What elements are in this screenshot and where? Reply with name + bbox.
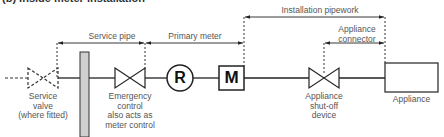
label-installation-pipework: Installation pipework (275, 6, 365, 16)
wall (80, 52, 89, 137)
appliance-box (385, 63, 438, 92)
label-primary-meter: Primary meter (165, 32, 225, 42)
label-service-valve: Service valve (where fitted) (18, 92, 68, 121)
label-emergency-control: Emergency control also acts as meter con… (102, 92, 158, 130)
regulator-symbol: R (170, 69, 190, 87)
label-appliance: Appliance (385, 95, 438, 105)
meter-symbol: M (219, 68, 244, 88)
label-appliance-shutoff: Appliance shut-off device (299, 92, 349, 121)
label-appliance-connector: Appliance connector (332, 25, 382, 44)
label-service-pipe: Service pipe (82, 32, 142, 42)
emergency-control-valve-icon (115, 68, 145, 88)
service-valve-icon (28, 68, 58, 88)
